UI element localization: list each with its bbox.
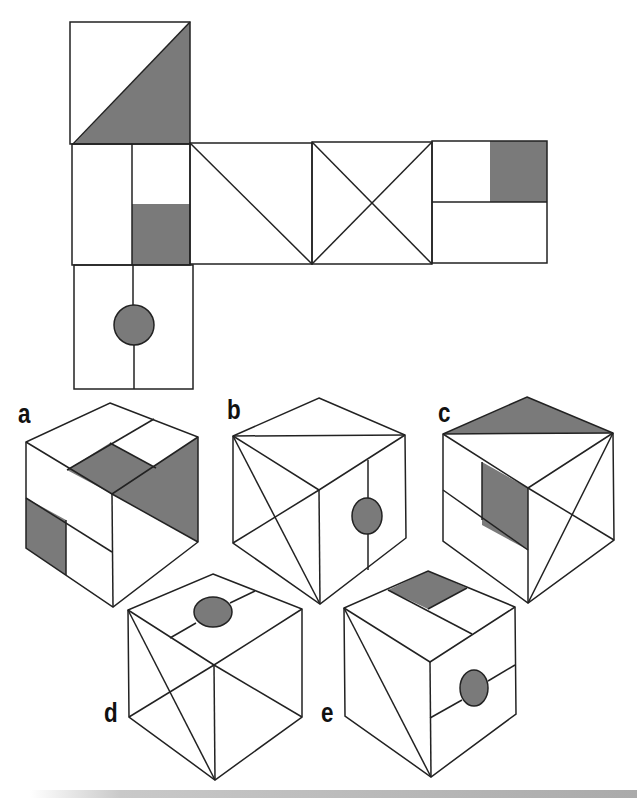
net-face-right	[432, 141, 547, 263]
option-d-cube[interactable]	[128, 574, 302, 780]
option-e-cube[interactable]	[344, 571, 516, 777]
option-c-label: c	[438, 399, 450, 427]
cube-net	[70, 22, 547, 389]
net-face-middle-1	[190, 143, 312, 264]
option-a-cube[interactable]	[26, 403, 198, 607]
net-face-left	[72, 144, 190, 265]
page-edge-shadow	[30, 790, 637, 798]
net-face-top	[70, 22, 190, 145]
net-face-middle-2	[312, 142, 432, 264]
net-face-bottom	[74, 265, 193, 389]
option-b-label: b	[227, 396, 241, 424]
option-a-label: a	[18, 400, 30, 428]
cube-puzzle-diagram	[0, 0, 637, 798]
option-b-cube[interactable]	[233, 398, 406, 604]
option-d-label: d	[104, 699, 118, 727]
option-e-label: e	[321, 699, 333, 727]
option-c-cube[interactable]	[443, 397, 614, 603]
